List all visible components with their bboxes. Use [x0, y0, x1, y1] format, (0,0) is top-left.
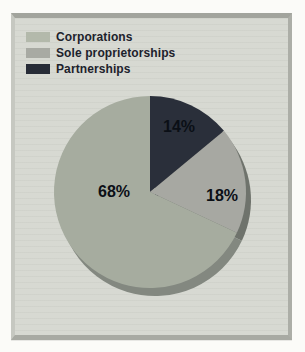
- pie-chart: [0, 0, 305, 352]
- pie-label-corporations: 68%: [98, 183, 130, 201]
- page: Corporations Sole proprietorships Partne…: [0, 0, 305, 352]
- pie-label-partnerships: 14%: [163, 118, 195, 136]
- pie-label-sole-proprietorships: 18%: [206, 187, 238, 205]
